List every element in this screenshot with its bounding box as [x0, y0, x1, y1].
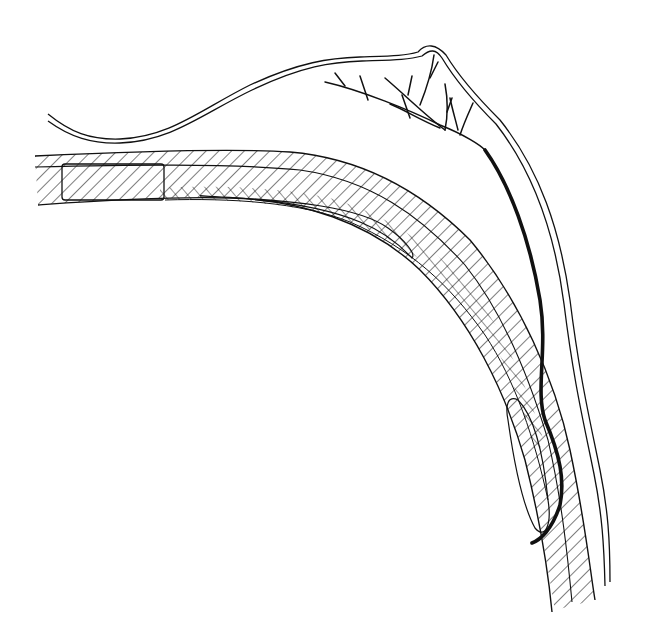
- line-drawing: [0, 0, 663, 638]
- band-inner-layer: [35, 165, 572, 602]
- hatched-curved-band: [0, 0, 663, 638]
- illustration: [0, 0, 663, 638]
- branching-vessel-tree: [325, 55, 485, 150]
